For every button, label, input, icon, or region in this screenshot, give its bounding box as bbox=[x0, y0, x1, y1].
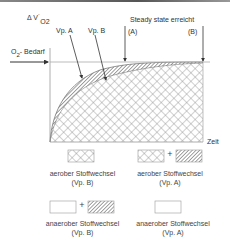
pointer-vp-a bbox=[70, 35, 82, 78]
marker-b: (B) bbox=[188, 28, 197, 36]
o2-demand-suffix: - Bedarf bbox=[20, 48, 45, 55]
swatch-aerob-a-cross bbox=[138, 150, 164, 162]
legend-label-anaerob-b: anaerober Stoffwechsel (Vp. B) bbox=[40, 219, 125, 237]
oxygen-demand-diagram bbox=[0, 0, 230, 246]
curve-label-vp-a: Vp. A bbox=[56, 27, 73, 35]
plot-area bbox=[10, 26, 210, 142]
marker-a: (A) bbox=[128, 28, 137, 36]
legend-aerob-a-text: aerober Stoffwechsel bbox=[130, 169, 210, 178]
o2-demand-label: O2- Bedarf bbox=[11, 48, 45, 56]
area-under-curve-b bbox=[50, 63, 203, 142]
y-axis-label: Δ V˙O2 bbox=[27, 14, 50, 22]
curve-label-vp-b: Vp. B bbox=[88, 27, 105, 35]
steady-state-label: Steady state erreicht bbox=[130, 16, 194, 24]
legend-label-anaerob-a: anaerober Stoffwechsel (Vp. A) bbox=[128, 219, 218, 237]
swatch-aerob-a-diag bbox=[176, 150, 202, 162]
y-axis-label-sub: O2 bbox=[40, 18, 49, 25]
legend-aerob-a-sub: (Vp. A) bbox=[130, 178, 210, 187]
legend-anaerob-a-text: anaerober Stoffwechsel bbox=[128, 219, 218, 228]
legend-aerob-b-sub: (Vp. B) bbox=[45, 178, 120, 187]
swatch-anaerob-b-empty bbox=[50, 201, 76, 213]
legend-plus-aerob-a: + bbox=[166, 150, 174, 159]
y-axis-label-main: Δ V˙ bbox=[27, 14, 40, 21]
legend-anaerob-b-sub: (Vp. B) bbox=[40, 228, 125, 237]
legend-label-aerob-a: aerober Stoffwechsel (Vp. A) bbox=[130, 169, 210, 187]
legend-anaerob-b-text: anaerober Stoffwechsel bbox=[40, 219, 125, 228]
legend-anaerob-a-sub: (Vp. A) bbox=[128, 228, 218, 237]
legend-plus-anaerob-b: + bbox=[78, 201, 86, 210]
o2-demand-sub: 2 bbox=[16, 52, 19, 58]
swatch-anaerob-a-empty bbox=[155, 201, 181, 213]
x-axis-label: Zeit bbox=[207, 138, 219, 146]
swatch-aerob-b-cross bbox=[68, 150, 94, 162]
swatch-anaerob-b-diag bbox=[88, 201, 114, 213]
legend-aerob-b-text: aerober Stoffwechsel bbox=[45, 169, 120, 178]
legend-label-aerob-b: aerober Stoffwechsel (Vp. B) bbox=[45, 169, 120, 187]
